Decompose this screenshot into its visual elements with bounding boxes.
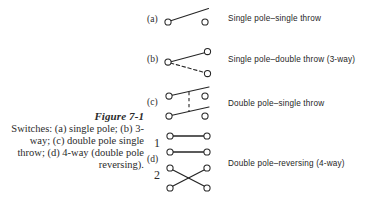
switch-arm-b-dashed [171,63,205,73]
contact-d2-cross-up [172,170,205,187]
description-double-pole-reversing: Double pole–reversing (4-way) [228,159,345,168]
figure-caption: Figure 7-1 Switches: (a) single pole; (b… [8,110,144,172]
switch-arm-a [170,9,209,22]
terminal-d2-lower-right [204,185,210,191]
switch-arm-c-upper [171,87,209,96]
terminal-d1-lower-right [204,149,210,155]
contact-d2-cross-down [172,170,205,187]
item-label-d: (d) [147,154,165,164]
diagram-b-single-pole-double-throw [165,48,211,76]
position-number-2: 2 [150,168,164,183]
terminal-d2-lower-left [167,185,173,191]
terminal-d2-upper-right [204,165,210,171]
diagram-a-single-pole-single-throw [165,9,209,26]
terminal-b-common [165,59,171,65]
item-label-a: (a) [147,14,165,24]
item-label-b: (b) [147,54,165,64]
figure-number: Figure 7-1 [8,110,144,122]
terminal-b-throw-lower [204,70,210,76]
terminal-d1-upper-right [204,133,210,139]
description-single-pole-single-throw: Single pole–single throw [228,14,321,23]
terminal-c-lower-right [202,113,208,119]
terminal-d1-upper-left [167,133,173,139]
terminal-c-upper-left [166,93,172,99]
terminal-c-upper-right [202,93,208,99]
item-label-c: (c) [147,97,165,107]
terminal-d2-upper-left [167,165,173,171]
terminal-c-lower-left [166,113,172,119]
terminal-d1-lower-left [167,149,173,155]
description-single-pole-double-throw: Single pole–double throw (3-way) [228,55,355,64]
switch-arm-b-solid [170,53,206,63]
figure-caption-text: Switches: (a) single pole; (b) 3-way; (c… [8,123,144,172]
diagram-d-position-1 [167,133,210,155]
terminal-b-throw-upper [204,48,210,54]
diagram-c-double-pole-single-throw [166,87,209,119]
terminal-a-right [202,19,208,25]
position-number-1: 1 [150,136,164,151]
switch-arm-c-lower [171,107,209,116]
terminal-a-left [165,19,171,25]
diagram-d-position-2 [167,165,210,191]
description-double-pole-single-throw: Double pole–single throw [228,99,324,108]
